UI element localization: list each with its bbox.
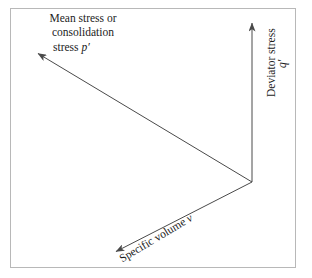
mean-stress-label-prefix: stress	[53, 41, 81, 53]
deviator-stress-prime: ′	[276, 60, 288, 63]
mean-stress-axis-label: Mean stress or consolidation stress p′	[27, 12, 139, 55]
mean-stress-prime: ′	[87, 41, 90, 53]
mean-stress-axis-line	[38, 54, 252, 183]
figure-container: Mean stress or consolidation stress p′ D…	[0, 0, 312, 278]
mean-stress-label-line1: Mean stress or	[49, 12, 116, 24]
mean-stress-label-line3: stress p′	[53, 41, 139, 55]
deviator-stress-symbol-group: q′	[276, 60, 290, 68]
deviator-stress-symbol: q	[276, 62, 288, 68]
mean-stress-label-line2: consolidation	[52, 26, 114, 38]
